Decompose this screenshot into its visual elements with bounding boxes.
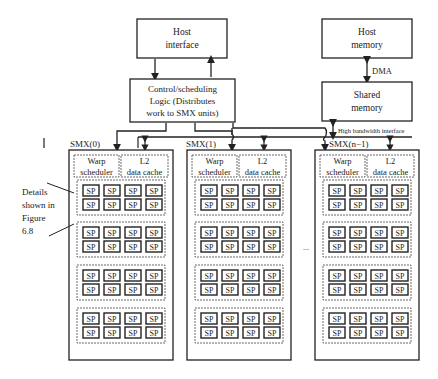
svg-text:SP: SP xyxy=(333,201,342,210)
svg-text:SP: SP xyxy=(108,201,117,210)
sp-core: SP xyxy=(146,284,162,295)
svg-text:SP: SP xyxy=(333,315,342,324)
host-memory-box: Host memory xyxy=(322,19,412,58)
sp-core: SP xyxy=(350,313,366,324)
sp-core: SP xyxy=(201,241,217,252)
sp-core: SP xyxy=(329,241,345,252)
sp-core: SP xyxy=(146,327,162,338)
sp-core: SP xyxy=(146,313,162,324)
svg-text:SMX(1): SMX(1) xyxy=(186,139,216,149)
gpu-architecture-diagram: Host interface Host memory DMA Shared me… xyxy=(0,0,438,379)
sp-core: SP xyxy=(329,199,345,210)
svg-text:SP: SP xyxy=(150,187,159,196)
svg-text:L2: L2 xyxy=(140,156,149,166)
sp-core: SP xyxy=(371,241,387,252)
sp-core: SP xyxy=(222,327,238,338)
sp-core: SP xyxy=(350,227,366,238)
sp-core: SP xyxy=(329,185,345,196)
shared-memory-box: Shared memory xyxy=(322,82,412,121)
sp-core: SP xyxy=(83,199,99,210)
smx-unit-n-1: SMX(n−1) Warp scheduler L2 data cache SP… xyxy=(315,139,419,360)
svg-text:SP: SP xyxy=(268,229,277,238)
svg-text:SP: SP xyxy=(87,187,96,196)
sp-core: SP xyxy=(104,313,120,324)
svg-text:SP: SP xyxy=(333,272,342,281)
svg-text:SP: SP xyxy=(375,286,384,295)
sp-core: SP xyxy=(371,185,387,196)
svg-text:SP: SP xyxy=(108,229,117,238)
svg-text:Details: Details xyxy=(22,187,48,197)
svg-text:Host: Host xyxy=(173,27,191,37)
svg-text:SP: SP xyxy=(247,187,256,196)
svg-text:SP: SP xyxy=(205,315,214,324)
svg-text:SP: SP xyxy=(108,272,117,281)
svg-text:SP: SP xyxy=(108,243,117,252)
svg-text:SP: SP xyxy=(150,286,159,295)
sp-core: SP xyxy=(222,241,238,252)
svg-text:SP: SP xyxy=(354,286,363,295)
sp-core: SP xyxy=(371,284,387,295)
sp-core: SP xyxy=(264,241,280,252)
sp-core: SP xyxy=(104,199,120,210)
sp-core: SP xyxy=(125,185,141,196)
sp-core: SP xyxy=(371,227,387,238)
sp-core: SP xyxy=(201,313,217,324)
sp-core: SP xyxy=(264,327,280,338)
sp-core: SP xyxy=(350,284,366,295)
svg-text:memory: memory xyxy=(351,103,383,113)
smx-unit-0: SMX(0) Warp scheduler L2 data cache SPSP… xyxy=(69,139,173,360)
svg-text:data cache: data cache xyxy=(245,167,281,177)
svg-text:Warp: Warp xyxy=(87,156,105,166)
sp-core: SP xyxy=(392,241,408,252)
sp-core: SP xyxy=(222,185,238,196)
svg-text:SP: SP xyxy=(268,187,277,196)
sp-core: SP xyxy=(392,284,408,295)
svg-text:SP: SP xyxy=(87,229,96,238)
svg-text:SP: SP xyxy=(375,229,384,238)
sp-core: SP xyxy=(104,284,120,295)
sp-core: SP xyxy=(104,185,120,196)
svg-text:SP: SP xyxy=(333,187,342,196)
sp-core: SP xyxy=(371,270,387,281)
sp-core: SP xyxy=(350,270,366,281)
svg-text:SP: SP xyxy=(247,329,256,338)
sp-core: SP xyxy=(222,313,238,324)
svg-text:SP: SP xyxy=(226,187,235,196)
svg-text:DMA: DMA xyxy=(372,66,393,76)
control-distribution-wires xyxy=(117,123,327,148)
sp-core: SP xyxy=(392,185,408,196)
sp-core: SP xyxy=(104,227,120,238)
svg-text:SP: SP xyxy=(375,187,384,196)
svg-text:scheduler: scheduler xyxy=(80,167,113,177)
sp-core: SP xyxy=(264,284,280,295)
svg-text:SP: SP xyxy=(354,201,363,210)
sp-core: SP xyxy=(104,241,120,252)
svg-text:memory: memory xyxy=(351,40,383,50)
svg-text:SP: SP xyxy=(396,272,405,281)
sp-core: SP xyxy=(243,241,259,252)
svg-text:SP: SP xyxy=(268,201,277,210)
svg-text:SP: SP xyxy=(247,315,256,324)
svg-text:SP: SP xyxy=(205,187,214,196)
svg-text:SP: SP xyxy=(247,243,256,252)
svg-text:SP: SP xyxy=(354,329,363,338)
sp-core: SP xyxy=(146,227,162,238)
svg-text:SP: SP xyxy=(375,329,384,338)
svg-text:SP: SP xyxy=(396,201,405,210)
svg-text:scheduler: scheduler xyxy=(198,167,231,177)
svg-text:SP: SP xyxy=(247,201,256,210)
svg-text:SP: SP xyxy=(226,243,235,252)
svg-text:Shared: Shared xyxy=(354,90,381,100)
sp-core: SP xyxy=(125,227,141,238)
sp-core: SP xyxy=(329,227,345,238)
sp-core: SP xyxy=(371,327,387,338)
sp-core: SP xyxy=(222,270,238,281)
sp-core: SP xyxy=(243,284,259,295)
sp-core: SP xyxy=(264,185,280,196)
sp-core: SP xyxy=(83,185,99,196)
svg-text:SP: SP xyxy=(108,286,117,295)
svg-text:SP: SP xyxy=(87,272,96,281)
sp-core: SP xyxy=(371,313,387,324)
svg-text:SP: SP xyxy=(129,201,138,210)
sp-core: SP xyxy=(125,327,141,338)
